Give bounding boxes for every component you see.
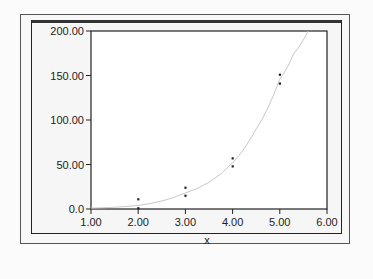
x-tick-label: 2.00 (127, 216, 148, 228)
x-tick-label: 5.00 (269, 216, 290, 228)
x-tick-label: 6.00 (316, 216, 337, 228)
data-point (279, 74, 281, 76)
scatter-plot: 0.050.00100.00150.00200.001.002.003.004.… (0, 0, 373, 279)
data-point (137, 207, 139, 209)
y-tick-label: 200.00 (50, 25, 84, 37)
x-tick-label: 3.00 (175, 216, 196, 228)
axes (86, 31, 327, 214)
data-point (279, 83, 281, 85)
data-point (232, 165, 234, 167)
data-point (184, 195, 186, 197)
x-axis-title: x (204, 234, 210, 246)
y-tick-label: 50.00 (56, 159, 84, 171)
data-point (137, 198, 139, 200)
y-tick-label: 0.0 (69, 203, 84, 215)
data-point (184, 187, 186, 189)
y-tick-label: 150.00 (50, 70, 84, 82)
y-tick-label: 100.00 (50, 114, 84, 126)
x-tick-label: 1.00 (80, 216, 101, 228)
data-point (232, 157, 234, 159)
x-tick-label: 4.00 (222, 216, 243, 228)
